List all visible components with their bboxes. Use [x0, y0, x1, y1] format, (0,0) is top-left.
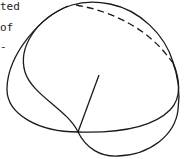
outer-loop-curve: [7, 2, 179, 132]
curve-diagram: [0, 0, 184, 159]
spoke-line: [78, 75, 99, 132]
inner-loop-curve: [23, 6, 178, 156]
